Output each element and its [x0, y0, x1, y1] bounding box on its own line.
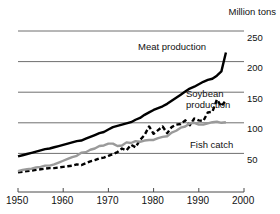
y-tick-label-250: 250 [247, 33, 263, 43]
chart-container: Million tons 250 200 150 100 50 1950 196… [0, 0, 280, 214]
axis-unit-label: Million tons [228, 6, 276, 17]
series-paths-group [18, 52, 226, 172]
x-tick-label-1980: 1980 [142, 195, 164, 206]
series-label-soybean-production: Soybean production [186, 89, 244, 110]
x-axis-group [18, 188, 244, 192]
y-tick-label-100: 100 [247, 124, 263, 134]
y-tick-label-150: 150 [247, 94, 263, 104]
series-label-fish-catch: Fish catch [190, 140, 233, 151]
series-label-meat-production: Meat production [138, 42, 206, 53]
y-tick-label-50: 50 [247, 155, 258, 165]
series-label-soybean-line1: Soybean [186, 88, 224, 99]
series-line-soybean-production [18, 100, 226, 173]
series-label-soybean-line2: production [186, 99, 230, 110]
x-tick-label-1950: 1950 [6, 195, 28, 206]
y-tick-label-200: 200 [247, 63, 263, 73]
x-tick-label-2000: 2000 [232, 195, 254, 206]
x-tick-label-1990: 1990 [187, 195, 209, 206]
x-tick-label-1970: 1970 [96, 195, 118, 206]
x-tick-label-1960: 1960 [51, 195, 73, 206]
